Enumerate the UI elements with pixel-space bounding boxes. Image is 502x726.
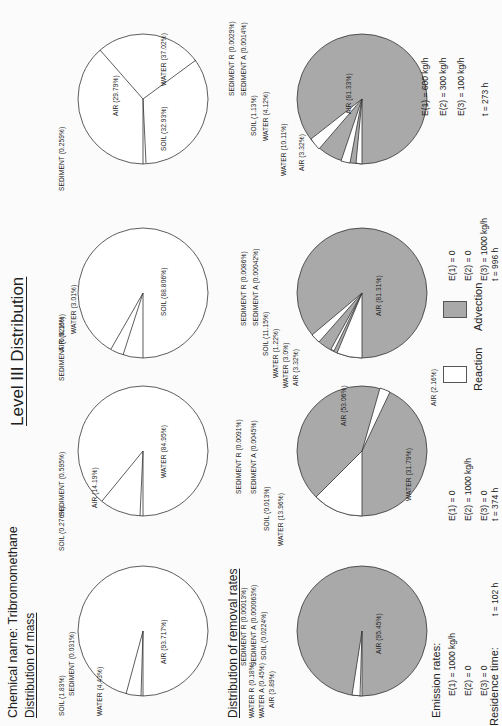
- mass-4-label-soil: SOIL (32.93%): [160, 106, 167, 151]
- removal-3-label-water-r: WATER (1.22%): [272, 329, 279, 378]
- legend-reaction-label: Reaction: [472, 348, 484, 391]
- scenario-3-e3: E(3) = 1000 kg/h: [479, 218, 489, 281]
- removal-3-label-air-a: AIR (81.31%): [375, 275, 382, 316]
- mass-4-label-sediment: SEDIMENT (0.259%): [58, 127, 65, 191]
- removal-4-label-sediment-a: SEDIMENT A (0.0014%): [240, 22, 247, 96]
- mass-1-label-soil: SOIL (1.83%): [58, 675, 65, 716]
- mass-1-label-sediment: SEDIMENT (0.031%): [68, 632, 75, 696]
- mass-pie-4: [78, 34, 208, 164]
- removal-2-label-soil: SOIL (0.013%): [263, 486, 270, 531]
- mass-2-label-sediment: SEDIMENT (0.595%): [58, 452, 65, 516]
- scenario-1-e1: E(1) = 1000 kg/h: [447, 633, 457, 696]
- scenario-2-e1: E(1) = 0: [447, 491, 457, 521]
- scenario-2-e3: E(3) = 0: [479, 491, 489, 521]
- removal-1-label-sediment-r: SEDIMENT R (0.00013%): [240, 587, 247, 666]
- removal-1-label-water-a: WATER A (0.45%): [258, 663, 265, 718]
- mass-2-label-water: WATER (84.95%): [160, 425, 167, 478]
- mass-1-label-water: WATER (4.43%): [96, 667, 103, 716]
- removal-3-label-water-a: WATER (3.0%): [282, 342, 289, 388]
- removal-4-label-water-a: WATER (10.11%): [280, 123, 287, 176]
- removal-3-label-air-r: AIR (3.32%): [292, 349, 299, 386]
- removal-2-label-water-a: WATER (31.79%): [405, 448, 412, 501]
- scenario-4-residence: t = 273 h: [480, 83, 490, 116]
- removal-1-label-sediment-a: SEDIMENT A (0.000063%): [250, 585, 257, 666]
- removal-1-label-soil: SOIL (0.0224%): [260, 612, 267, 660]
- mass-4-label-air: AIR (29.79%): [112, 75, 119, 116]
- scenario-3-residence: t = 996 h: [490, 248, 500, 281]
- removal-2-label-air-r: AIR (2.16%): [430, 369, 437, 406]
- scenario-2-residence: t = 374 h: [490, 488, 500, 521]
- mass-3-label-soil: SOIL (88.806%): [160, 268, 167, 316]
- removal-3-label-sediment-a: SEDIMENT A (0.00042%): [252, 249, 259, 326]
- removal-1-label-air-r: AIR (3.89%): [268, 671, 275, 708]
- legend-advection-swatch: [443, 301, 467, 318]
- scenario-1-residence: t = 102 h: [490, 583, 500, 616]
- mass-pie-3: [78, 228, 208, 358]
- removal-3-label-soil: SOIL (11.15%): [262, 312, 269, 356]
- removal-4-label-sediment-r: SEDIMENT R (0.0029%): [228, 21, 235, 96]
- removal-2-label-air-a: AIR (53.06%): [340, 385, 347, 426]
- scenario-4-e2: E(2) = 300 kg/h: [438, 58, 448, 116]
- mass-1-label-air: AIR (93.717%): [160, 619, 167, 664]
- removal-3-label-sediment-r: SEDIMENT R (0.0086%): [240, 251, 247, 326]
- scenario-2-e2: E(2) = 1000 kg/h: [463, 458, 473, 521]
- removal-4-label-water-r: WATER (4.12%): [262, 92, 269, 141]
- removal-1-label-air-a: AIR (95.45%): [375, 613, 382, 654]
- removal-pie-4: [297, 34, 427, 164]
- removal-4-label-soil: SOIL (1.13%): [250, 95, 257, 136]
- scenario-3-e1: E(1) = 0: [447, 251, 457, 281]
- legend-reaction-swatch: [443, 366, 467, 383]
- scenario-3-e2: E(2) = 0: [463, 251, 473, 281]
- removal-pie-1: [297, 566, 427, 696]
- document-page: Chemical name: Tribromomethane Distribut…: [0, 0, 502, 726]
- emission-rates-heading: Emission rates:: [430, 643, 442, 718]
- mass-3-label-air: AIR (8.16%): [58, 314, 65, 351]
- mass-3-label-water: WATER (3.01%): [70, 285, 77, 334]
- removal-4-label-air-r: AIR (3.32%): [298, 134, 305, 171]
- removal-1-label-water-r: WATER R (0.18%): [248, 662, 255, 718]
- mass-2-label-air: AIR (14.19%): [91, 467, 98, 508]
- removal-2-label-sediment-r: SEDIMENT R (0.0091%): [235, 419, 242, 494]
- removal-4-label-air-a: AIR (81.33%): [345, 73, 352, 114]
- removal-pie-3: [297, 228, 427, 358]
- scenario-4-e3: E(3) = 100 kg/h: [456, 58, 466, 116]
- removal-2-label-water-r: WATER (13.96%): [277, 493, 284, 546]
- scenario-4-e1: E(1) = 600 kg/h: [420, 58, 430, 116]
- residence-time-heading: Residence time:: [488, 647, 500, 726]
- scenario-1-e2: E(2) = 0: [463, 666, 473, 696]
- mass-4-label-water: WATER (37.02%): [160, 33, 167, 86]
- legend-advection-label: Advection: [472, 283, 484, 331]
- removal-2-label-sediment-a: SEDIMENT A (0.0045%): [250, 420, 257, 494]
